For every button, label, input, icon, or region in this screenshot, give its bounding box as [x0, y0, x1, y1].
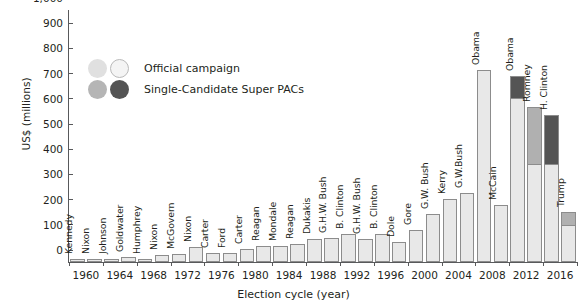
bar: Reagan — [256, 246, 271, 262]
x-tick-mark — [204, 262, 205, 266]
y-tick-label: 700 — [43, 68, 69, 80]
x-tick-mark — [272, 262, 273, 266]
bar-segment-official — [88, 260, 101, 261]
bar-label-candidate: G.H.W. Bush — [352, 177, 361, 233]
bar-segment-official — [241, 250, 254, 261]
bar-label-candidate: Reagan — [285, 204, 294, 239]
bar-segment-official — [105, 260, 118, 261]
bar-label-candidate: Nixon — [183, 216, 192, 242]
legend-swatches-superpac — [88, 80, 136, 99]
x-tick-mark — [340, 262, 341, 266]
bar: Romney — [527, 107, 542, 262]
bar-label-candidate: Nixon — [81, 228, 90, 254]
y-tick-mark — [69, 73, 73, 74]
x-tick-label: 1976 — [208, 262, 235, 281]
bar-segment-official — [562, 226, 575, 261]
bar-segment-official — [325, 239, 338, 261]
y-tick-mark — [69, 149, 73, 150]
bar-segment-official — [444, 200, 457, 261]
bar-label-candidate: Obama — [471, 32, 480, 65]
bar-segment-official — [139, 260, 152, 261]
y-tick-label: 600 — [43, 93, 69, 105]
y-tick-mark — [69, 199, 73, 200]
x-tick-mark — [475, 262, 476, 266]
bar: McGovern — [172, 254, 187, 262]
bar-segment-official — [274, 247, 287, 261]
bar-label-candidate: Kerry — [437, 170, 446, 194]
bar-label-candidate: Carter — [234, 216, 243, 245]
bar-label-candidate: H. Clinton — [539, 65, 548, 110]
x-tick-mark — [577, 262, 578, 266]
bar: Goldwater — [121, 257, 136, 262]
x-tick-mark — [442, 262, 443, 266]
bar-label-candidate: Goldwater — [115, 205, 124, 252]
x-tick-label: 1972 — [174, 262, 201, 281]
bar-segment-official — [173, 255, 186, 261]
bar-segment-official — [528, 165, 541, 261]
x-tick-label: 2012 — [513, 262, 540, 281]
x-tick-label: 1984 — [276, 262, 303, 281]
bar-segment-official — [190, 248, 203, 261]
x-tick-label: 1964 — [106, 262, 133, 281]
bar-segment-super-pac — [562, 213, 575, 227]
x-tick-mark — [137, 262, 138, 266]
bar-chart: US$ (millions) 0100200300400500600700800… — [0, 0, 587, 308]
bar-label-candidate: Humphrey — [132, 206, 141, 254]
legend-label-official: Official campaign — [136, 62, 240, 75]
bar-segment-official — [156, 256, 169, 261]
bar-segment-official — [511, 99, 524, 261]
bar-segment-official — [427, 215, 440, 261]
bar-segment-official — [342, 235, 355, 261]
bar-segment-official — [257, 247, 270, 261]
bar-segment-super-pac — [545, 116, 558, 165]
bar: Ford — [223, 253, 238, 262]
y-tick-label: 300 — [43, 168, 69, 180]
bar-segment-official — [393, 243, 406, 261]
y-tick-label: 900 — [43, 17, 69, 29]
bar-label-candidate: McGovern — [166, 203, 175, 249]
x-tick-label: 1968 — [140, 262, 167, 281]
y-tick-label: 1,000 — [33, 0, 69, 4]
x-tick-mark — [103, 262, 104, 266]
bar-label-candidate: Ford — [217, 228, 226, 248]
bar-segment-official — [224, 254, 237, 261]
bar-segment-official — [207, 254, 220, 261]
y-tick-label: 500 — [43, 118, 69, 130]
bar-label-candidate: Dole — [386, 216, 395, 237]
bar: G.H.W. Bush — [324, 238, 339, 262]
bar-segment-official — [495, 206, 508, 261]
x-tick-mark — [509, 262, 510, 266]
bar-segment-official — [122, 258, 135, 261]
bar-segment-official — [71, 260, 84, 261]
y-tick-label: 400 — [43, 143, 69, 155]
bar-label-candidate: Obama — [505, 37, 514, 70]
bar-label-candidate: Carter — [200, 219, 209, 248]
x-tick-mark — [543, 262, 544, 266]
y-tick-mark — [69, 48, 73, 49]
legend-circle-light-outline-icon — [110, 59, 129, 78]
x-tick-label: 1992 — [343, 262, 370, 281]
bar-label-candidate: B. Clinton — [335, 185, 344, 229]
x-tick-label: 1988 — [310, 262, 337, 281]
x-tick-mark — [69, 262, 70, 266]
bar: B. Clinton — [341, 234, 356, 262]
bar-label-candidate: G.H.W. Bush — [318, 177, 327, 233]
bar-segment-official — [359, 240, 372, 261]
bar: Humphrey — [138, 259, 153, 262]
y-tick-mark — [69, 98, 73, 99]
bar-label-candidate: McCain — [488, 166, 497, 199]
legend-circle-mid-icon — [88, 80, 107, 99]
bar: Dole — [392, 242, 407, 262]
bar: Dukakis — [307, 239, 322, 262]
bar-label-candidate: Nixon — [149, 224, 158, 250]
bar-label-candidate: Romney — [522, 64, 531, 102]
bar-segment-super-pac — [528, 108, 541, 165]
bar: Gore — [409, 230, 424, 262]
bar-segment-official — [308, 240, 321, 261]
bar-label-candidate: Mondale — [268, 201, 277, 240]
bar: Carter — [240, 249, 255, 262]
bar-label-candidate: B. Clinton — [369, 185, 378, 229]
bar: G.H.W. Bush — [358, 239, 373, 262]
legend-circle-light-icon — [88, 59, 107, 78]
bar-segment-official — [410, 231, 423, 261]
